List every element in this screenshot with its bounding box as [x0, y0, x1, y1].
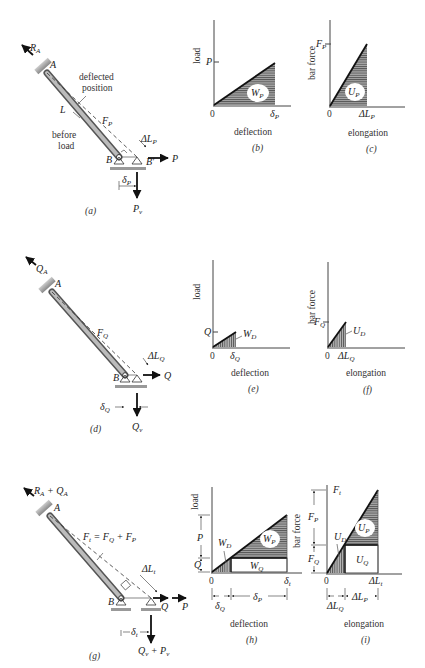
svg-text:position: position	[82, 83, 113, 93]
svg-text:δP: δP	[270, 108, 280, 121]
svg-text:elongation: elongation	[346, 368, 386, 378]
panel-d-bar-diagram: QA A FQ ΔLQ B Q δQ Qv (d)	[26, 257, 172, 435]
svg-text:bar force: bar force	[307, 290, 317, 324]
svg-text:RA + QA: RA + QA	[33, 485, 68, 498]
svg-text:QA: QA	[36, 263, 48, 276]
svg-text:Q: Q	[204, 326, 212, 337]
svg-text:B: B	[113, 372, 119, 383]
svg-text:δP: δP	[122, 174, 132, 187]
svg-text:A: A	[54, 278, 62, 289]
svg-text:ΔLQ: ΔLQ	[337, 350, 355, 363]
svg-text:deflection: deflection	[231, 368, 269, 378]
svg-text:Q: Q	[164, 370, 172, 381]
svg-text:UD: UD	[353, 325, 365, 338]
svg-text:δQ: δQ	[215, 600, 225, 613]
svg-text:Pv: Pv	[132, 203, 143, 216]
svg-text:ΔLt: ΔLt	[141, 563, 156, 576]
length-label: L	[59, 104, 66, 115]
svg-text:elongation: elongation	[344, 619, 384, 629]
svg-text:FQ: FQ	[307, 553, 319, 566]
svg-text:(h): (h)	[246, 635, 257, 646]
ground	[110, 167, 146, 170]
node-a-label: A	[49, 59, 57, 70]
svg-text:ΔLQ: ΔLQ	[147, 350, 165, 363]
panel-i-chart: Ft FP FQ UP UQ UD 0 ΔLt ΔLQ ΔLP elongati…	[292, 484, 402, 646]
load-p-label: P	[171, 153, 178, 164]
panel-g-bar-diagram: RA + QA A Ft = FQ + FP ΔLt B Q P δt Qv +…	[24, 485, 188, 662]
svg-text:ΔLP: ΔLP	[358, 108, 375, 121]
caption-a: (a)	[85, 206, 96, 217]
svg-text:load: load	[192, 283, 202, 300]
svg-text:A: A	[53, 502, 61, 513]
svg-text:load: load	[192, 47, 202, 64]
svg-text:δQ: δQ	[230, 350, 240, 363]
svg-text:bar force: bar force	[292, 514, 302, 548]
svg-text:Ft = FQ + FP: Ft = FQ + FP	[82, 531, 137, 544]
svg-text:Ft: Ft	[332, 484, 342, 497]
svg-text:(d): (d)	[90, 424, 101, 435]
deflected-label: deflected	[79, 72, 114, 82]
svg-text:0: 0	[327, 109, 332, 119]
svg-text:FQ: FQ	[96, 327, 108, 340]
svg-text:ΔLt: ΔLt	[368, 575, 383, 588]
force-label: FP	[101, 115, 113, 128]
panel-e-chart: WD Q 0 δQ deflection (e) load	[192, 260, 290, 395]
svg-text:load: load	[190, 493, 200, 510]
node-b-label: B	[106, 154, 112, 165]
svg-text:FP: FP	[307, 511, 319, 524]
svg-text:δQ: δQ	[100, 401, 110, 414]
svg-text:δt: δt	[284, 575, 292, 588]
svg-text:δP: δP	[253, 591, 263, 604]
energy-diagram: RA A deflected position L before load FP…	[0, 0, 425, 668]
svg-text:WD: WD	[243, 328, 256, 341]
svg-text:WD: WD	[218, 537, 231, 550]
svg-text:P: P	[181, 601, 188, 612]
svg-text:B: B	[108, 596, 114, 607]
svg-text:Qv: Qv	[132, 421, 143, 434]
svg-text:0: 0	[324, 576, 329, 586]
svg-text:ΔLP: ΔLP	[351, 591, 368, 604]
svg-text:P: P	[196, 532, 203, 543]
svg-text:elongation: elongation	[348, 128, 388, 138]
svg-text:deflection: deflection	[234, 127, 272, 137]
svg-text:0: 0	[325, 351, 330, 361]
svg-text:(b): (b)	[252, 143, 263, 154]
panel-h-chart: P Q WP WQ WD 0 δt δQ δP deflection (h) l…	[190, 487, 302, 646]
svg-text:(f): (f)	[363, 385, 372, 396]
svg-text:δt: δt	[131, 626, 139, 639]
panel-c-chart: UP FP 0 ΔLP elongation (c) bar force	[307, 20, 405, 155]
panel-f-chart: UD FQ 0 ΔLQ elongation (f) bar force	[307, 262, 405, 396]
svg-text:(i): (i)	[361, 635, 370, 646]
svg-text:P: P	[205, 56, 212, 67]
svg-text:UD: UD	[334, 531, 346, 544]
panel-a-bar-diagram: RA A deflected position L before load FP…	[22, 42, 178, 217]
panel-b-chart: WP P 0 δP deflection (b) load	[192, 20, 291, 154]
svg-text:0: 0	[210, 351, 215, 361]
svg-text:bar force: bar force	[307, 46, 317, 80]
svg-text:Q: Q	[194, 559, 202, 570]
svg-text:(e): (e)	[248, 384, 259, 395]
svg-text:load: load	[58, 141, 75, 151]
svg-text:0: 0	[209, 576, 214, 586]
svg-text:(g): (g)	[89, 651, 100, 662]
svg-text:deflection: deflection	[230, 619, 268, 629]
svg-text:(c): (c)	[366, 144, 377, 155]
svg-text:Qv + Pv: Qv + Pv	[138, 645, 170, 658]
before-load-label: before	[52, 130, 76, 140]
svg-text:Q: Q	[161, 601, 169, 612]
svg-text:ΔLQ: ΔLQ	[326, 600, 344, 613]
svg-text:0: 0	[210, 109, 215, 119]
